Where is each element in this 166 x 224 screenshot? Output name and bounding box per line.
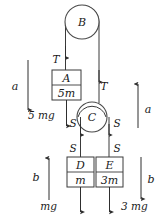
- block-d-mass: m: [75, 174, 85, 187]
- tension-s-e-label: S: [113, 142, 120, 154]
- pulley-c-label: C: [88, 111, 97, 124]
- accel-b-right-label: b: [147, 173, 154, 186]
- weight-a-label: 5 mg: [28, 109, 55, 121]
- block-e-label: E: [104, 159, 113, 172]
- tension-right-label: T: [100, 80, 108, 92]
- block-d-label: D: [75, 159, 85, 172]
- weight-e-label: 3 mg: [121, 200, 148, 212]
- tension-s-d-label: S: [69, 142, 76, 154]
- block-e-group: E 3m 3 mg: [96, 157, 148, 212]
- block-e-mass: 3m: [101, 174, 118, 187]
- accel-b-left-label: b: [32, 171, 39, 184]
- weight-d-label: mg: [40, 200, 57, 212]
- diagram-canvas: B A 5m 5 mg C: [0, 0, 166, 224]
- block-a-group: A 5m: [52, 70, 81, 100]
- accel-a-right-label: a: [145, 103, 152, 116]
- pulley-b-group: B: [65, 5, 99, 39]
- tension-left-label: T: [52, 53, 60, 65]
- block-d-group: D m mg: [40, 157, 94, 212]
- tension-s-c-right-label: S: [113, 117, 120, 129]
- block-a-label: A: [62, 72, 71, 85]
- tension-s-c-left-label: S: [69, 117, 76, 129]
- weight-a-group: 5 mg: [28, 100, 67, 126]
- pulley-b-label: B: [77, 16, 86, 29]
- physics-diagram-figure: B A 5m 5 mg C: [0, 0, 166, 224]
- accel-a-left-label: a: [12, 80, 19, 93]
- block-a-mass: 5m: [58, 87, 75, 100]
